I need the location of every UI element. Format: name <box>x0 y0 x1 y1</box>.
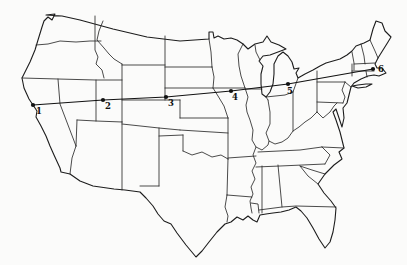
route-point-label: 3 <box>168 98 174 108</box>
route-point-label: 2 <box>105 101 111 111</box>
us-route-map: 123456 <box>0 0 407 265</box>
border-nv-az <box>76 120 77 146</box>
route-layer: 123456 <box>31 64 384 116</box>
border-ok-tx-panhandle <box>159 135 183 136</box>
border-co-nm-ok <box>122 124 180 130</box>
border-tn-nc <box>322 147 330 164</box>
long-island <box>352 84 372 88</box>
border-ny-nj <box>345 82 351 87</box>
coastline-path <box>22 14 391 257</box>
route-line <box>33 69 373 105</box>
border-mississippi-river <box>245 88 256 213</box>
border-nc-sc <box>300 166 325 174</box>
border-wa-or <box>36 41 101 45</box>
border-mo-ar <box>228 156 256 158</box>
border-pa-md-mason-dixon <box>317 102 343 103</box>
border-il-in-wabash <box>266 100 270 141</box>
border-ma-north <box>354 63 375 64</box>
border-pa-nj-delaware-river <box>342 82 345 103</box>
border-vt-nh <box>361 44 365 64</box>
border-la-ms-south <box>251 203 259 213</box>
route-point <box>31 103 35 107</box>
map-canvas: 123456 <box>0 0 407 265</box>
border-sd-mn <box>212 67 214 88</box>
border-tn-ms-al-ga <box>256 164 325 167</box>
state-borders <box>22 16 378 222</box>
route-point-label: 6 <box>378 64 384 74</box>
border-red-river <box>183 151 228 159</box>
route-point <box>371 67 375 71</box>
border-va-nc <box>322 147 344 148</box>
border-ca-az <box>70 146 76 174</box>
border-ct-ri <box>366 71 367 77</box>
border-al-ga <box>278 165 282 207</box>
border-il-in-top <box>266 97 268 100</box>
route-point-label: 5 <box>287 86 293 96</box>
border-wi-mi-up <box>255 45 260 60</box>
border-mi-oh <box>293 78 298 92</box>
border-mn-wi <box>238 44 245 88</box>
border-ar-la <box>227 195 252 197</box>
route-point-label: 1 <box>36 106 42 116</box>
route-point-label: 4 <box>232 92 238 102</box>
border-nh-me <box>370 40 378 58</box>
us-map-outline <box>22 14 391 257</box>
border-id-mt <box>97 21 122 64</box>
border-42nd-parallel <box>22 78 122 80</box>
border-ks-ok <box>180 130 228 133</box>
border-tx-la <box>225 195 228 222</box>
border-ohio-river <box>256 112 317 150</box>
border-ar-ok-tx <box>227 159 228 195</box>
border-37th-parallel-west <box>77 120 122 122</box>
border-nd-mn <box>209 39 212 67</box>
border-ky-tn <box>258 147 322 152</box>
border-ca-nv <box>58 79 76 146</box>
